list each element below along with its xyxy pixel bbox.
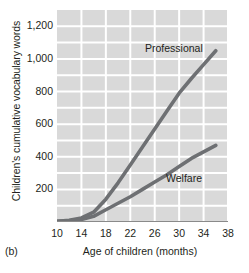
x-axis-title: Age of children (months)	[40, 245, 240, 257]
series-label-welfare: Welfare	[166, 172, 202, 184]
x-tick-label: 30	[166, 227, 192, 239]
series-lines	[57, 51, 228, 222]
y-tick-label: 1,000	[7, 52, 53, 64]
series-label-professional: Professional	[145, 42, 203, 54]
x-tick-label: 38	[215, 227, 241, 239]
y-tick-label: 1,200	[7, 19, 53, 31]
x-tick-label: 18	[93, 227, 119, 239]
x-tick-label: 26	[142, 227, 168, 239]
y-tick-label: 200	[7, 182, 53, 194]
x-tick-label: 14	[68, 227, 94, 239]
panel-tag: (b)	[5, 245, 18, 257]
x-tick-label: 34	[191, 227, 217, 239]
y-tick-label: 600	[7, 117, 53, 129]
y-tick-label: 400	[7, 150, 53, 162]
figure-panel-b: Children's cumulative vocabulary words 2…	[0, 0, 249, 273]
y-tick-label: 800	[7, 85, 53, 97]
x-tick-label: 10	[44, 227, 70, 239]
x-tick-label: 22	[117, 227, 143, 239]
